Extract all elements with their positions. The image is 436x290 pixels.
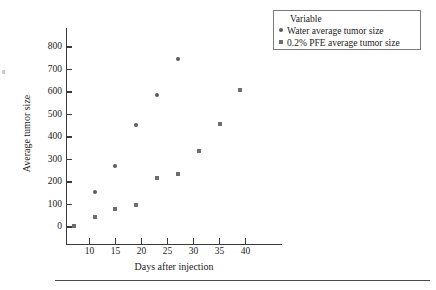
legend-title: Variable xyxy=(290,14,322,24)
data-point xyxy=(218,122,222,126)
data-point xyxy=(176,172,180,176)
data-point xyxy=(93,190,97,194)
y-tick xyxy=(67,69,72,70)
data-point xyxy=(113,207,117,211)
y-tick-label-text: 700 xyxy=(38,65,62,75)
x-tick-label: 40 xyxy=(235,246,257,256)
y-tick-label-text: 400 xyxy=(38,132,62,142)
y-tick-label-text: 300 xyxy=(38,155,62,165)
data-point xyxy=(155,176,159,180)
y-tick-label-text: 100 xyxy=(38,200,62,210)
footer-divider xyxy=(55,280,430,281)
x-tick xyxy=(89,238,90,244)
x-tick-label: 10 xyxy=(78,246,100,256)
data-point xyxy=(155,93,159,97)
x-tick-label: 15 xyxy=(104,246,126,256)
data-point xyxy=(134,203,138,207)
data-point xyxy=(197,149,201,153)
legend-label-pfe: 0.2% PFE average tumor size xyxy=(287,38,400,48)
data-point xyxy=(113,164,117,168)
legend-entry-pfe[interactable]: 0.2% PFE average tumor size xyxy=(279,37,400,48)
figure-page: 0100200300400500600700800 10152025303540… xyxy=(0,0,436,290)
data-point xyxy=(72,224,76,228)
y-tick xyxy=(67,136,72,137)
y-tick xyxy=(67,204,72,205)
y-tick-label-text: 600 xyxy=(38,87,62,97)
y-tick xyxy=(67,91,72,92)
x-tick xyxy=(115,238,116,244)
page-edge-artifact xyxy=(2,70,5,74)
y-tick-label-text: 800 xyxy=(38,42,62,52)
y-tick xyxy=(67,181,72,182)
y-axis-title: Average tumor size xyxy=(21,64,32,204)
x-tick-label: 20 xyxy=(130,246,152,256)
data-point xyxy=(93,215,97,219)
x-tick xyxy=(219,238,220,244)
x-tick-label: 25 xyxy=(156,246,178,256)
y-tick-label-text: 200 xyxy=(38,177,62,187)
square-marker-icon xyxy=(279,40,283,44)
data-point xyxy=(134,123,138,127)
x-tick xyxy=(141,238,142,244)
x-tick xyxy=(245,238,246,244)
y-tick xyxy=(67,159,72,160)
x-tick xyxy=(193,238,194,244)
data-point xyxy=(238,88,242,92)
y-tick-label-text: 0 xyxy=(38,222,62,232)
x-tick xyxy=(167,238,168,244)
x-axis-line xyxy=(66,244,282,245)
y-tick xyxy=(67,46,72,47)
x-axis-title: Days after injection xyxy=(66,261,282,272)
x-tick-label: 35 xyxy=(209,246,231,256)
x-tick-label: 30 xyxy=(183,246,205,256)
legend-entry-water[interactable]: Water average tumor size xyxy=(279,25,384,36)
chart-legend: Variable Water average tumor size 0.2% P… xyxy=(273,10,421,50)
data-point xyxy=(176,57,180,61)
y-tick-label-text: 500 xyxy=(38,110,62,120)
legend-label-water: Water average tumor size xyxy=(287,26,384,36)
circle-marker-icon xyxy=(279,28,283,32)
y-tick xyxy=(67,114,72,115)
